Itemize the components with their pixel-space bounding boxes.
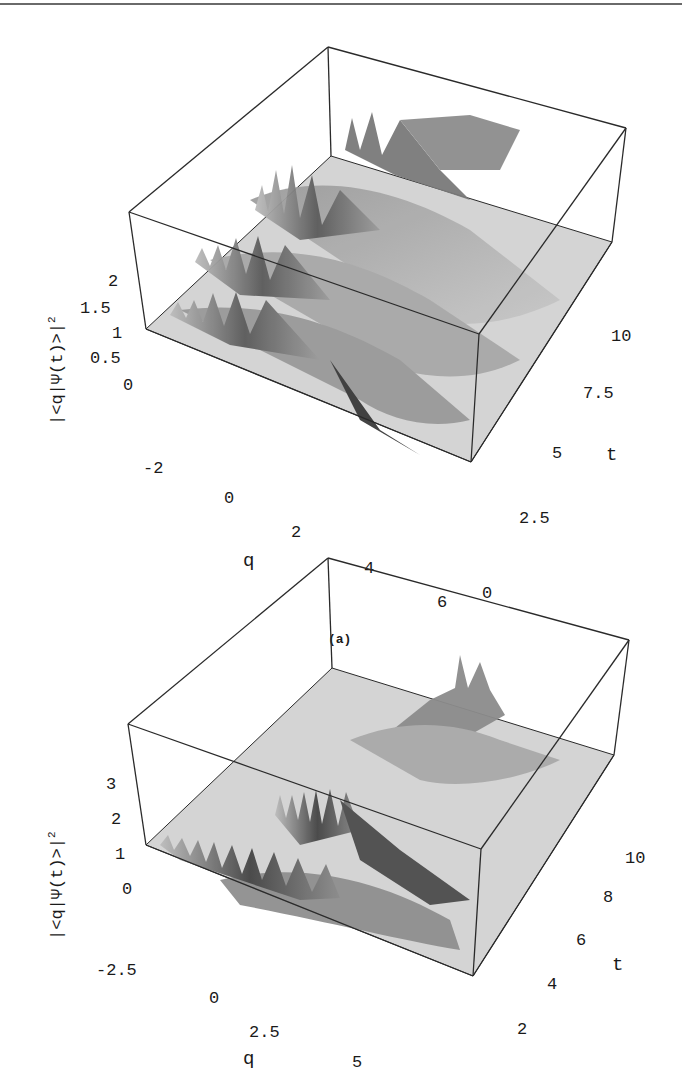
q-axis-label: q [243, 1050, 254, 1069]
t-tick: 6 [576, 932, 586, 949]
panel-b: |<q|Ψ(t)>|2 3 2 1 0 -2.5 0 2.5 5 7.5 q 0… [0, 0, 682, 1081]
z-tick: 0 [122, 881, 132, 898]
q-tick: 0 [209, 990, 219, 1007]
t-tick: 2 [517, 1021, 527, 1038]
t-tick: 8 [603, 889, 613, 906]
t-axis-label: t [612, 956, 623, 975]
surface-plot-b [0, 0, 682, 1081]
z-axis-label: |<q|Ψ(t)>|2 [46, 831, 67, 940]
q-tick: -2.5 [96, 962, 137, 979]
t-tick: 4 [547, 976, 557, 993]
q-tick: 2.5 [249, 1024, 280, 1041]
q-tick: 5 [352, 1054, 362, 1071]
z-tick: 1 [115, 846, 125, 863]
t-tick: 10 [625, 850, 645, 867]
z-tick: 3 [106, 776, 116, 793]
z-tick: 2 [111, 811, 121, 828]
